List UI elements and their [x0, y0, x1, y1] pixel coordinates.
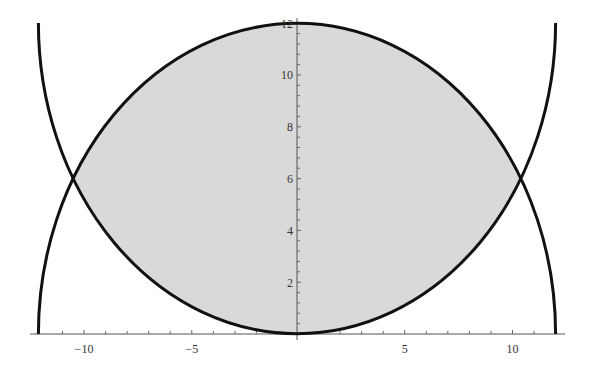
y-tick-label: 4	[287, 224, 293, 238]
plot-canvas: −10 −5 5 10 2 4 6 8 10 12	[0, 0, 589, 369]
y-tick-label: 2	[287, 276, 293, 290]
y-tick-label: 10	[281, 68, 293, 82]
y-tick-label: 12	[281, 17, 293, 31]
y-tick-label: 6	[287, 172, 293, 186]
x-tick-label: 5	[402, 342, 408, 356]
x-tick-label: −10	[75, 342, 94, 356]
x-tick-label: 10	[507, 342, 519, 356]
x-tick-label: −5	[185, 342, 198, 356]
y-tick-label: 8	[287, 120, 293, 134]
